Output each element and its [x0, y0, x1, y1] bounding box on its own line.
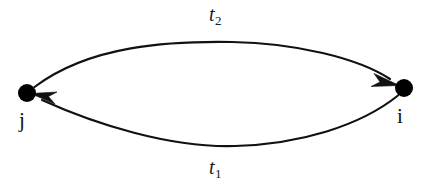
diagram-canvas: j i t2 t1: [0, 0, 429, 185]
node-j-label: j: [19, 110, 25, 131]
node-i-label: i: [397, 106, 403, 127]
edge-top-label-base: t: [209, 3, 215, 25]
edge-bottom-label: t1: [209, 157, 221, 177]
edge-top-curve: [35, 42, 391, 87]
edge-bottom-curve: [42, 96, 398, 147]
node-j-dot[interactable]: [18, 84, 36, 102]
edge-top-label: t2: [209, 4, 221, 24]
edge-bottom-label-base: t: [209, 156, 215, 178]
node-i-dot[interactable]: [395, 79, 413, 97]
edge-bottom-label-subscript: 1: [215, 166, 222, 181]
edge-top-label-subscript: 2: [215, 13, 222, 28]
